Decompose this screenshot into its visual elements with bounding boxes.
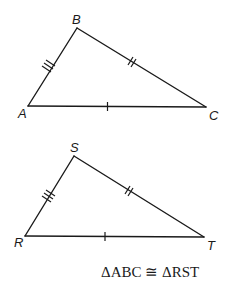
side-st bbox=[74, 156, 204, 237]
vertex-label-r: R bbox=[14, 235, 23, 250]
vertex-label-c: C bbox=[209, 108, 219, 123]
vertex-label-t: T bbox=[207, 238, 216, 253]
triple-tick-mark-rs bbox=[42, 190, 55, 202]
vertex-label-a: A bbox=[17, 106, 27, 121]
side-rt bbox=[25, 236, 204, 237]
congruence-caption: ΔABC ≅ ΔRST bbox=[101, 264, 199, 280]
triangle-rst: R S T bbox=[14, 140, 216, 253]
side-bc bbox=[77, 28, 206, 107]
side-ab bbox=[28, 28, 77, 106]
side-ac bbox=[28, 106, 206, 107]
congruent-triangles-diagram: A B C R S T ΔABC ≅ ΔRST bbox=[0, 0, 232, 289]
vertex-label-s: S bbox=[70, 140, 79, 155]
vertex-label-b: B bbox=[72, 12, 81, 27]
triangle-abc: A B C bbox=[17, 12, 219, 123]
